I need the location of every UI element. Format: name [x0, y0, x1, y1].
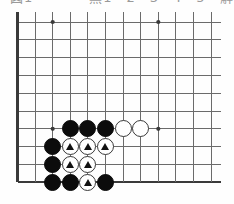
triangle-marker-icon [101, 143, 109, 150]
stone-black[interactable] [62, 174, 79, 191]
triangle-marker-icon [66, 143, 74, 150]
go-board[interactable] [0, 0, 234, 204]
triangle-marker-icon [84, 161, 92, 168]
go-board-grid [0, 0, 234, 204]
star-point [156, 20, 160, 24]
star-point [156, 127, 160, 131]
go-diagram-root: 図1 黒1 2 3 4 5 解説図 [0, 0, 234, 204]
star-point [51, 20, 55, 24]
stone-white[interactable] [115, 120, 132, 137]
stone-black[interactable] [44, 174, 61, 191]
triangle-marker-icon [84, 179, 92, 186]
stone-black[interactable] [97, 174, 114, 191]
triangle-marker-icon [66, 161, 74, 168]
triangle-marker-icon [84, 143, 92, 150]
star-point [51, 127, 55, 131]
